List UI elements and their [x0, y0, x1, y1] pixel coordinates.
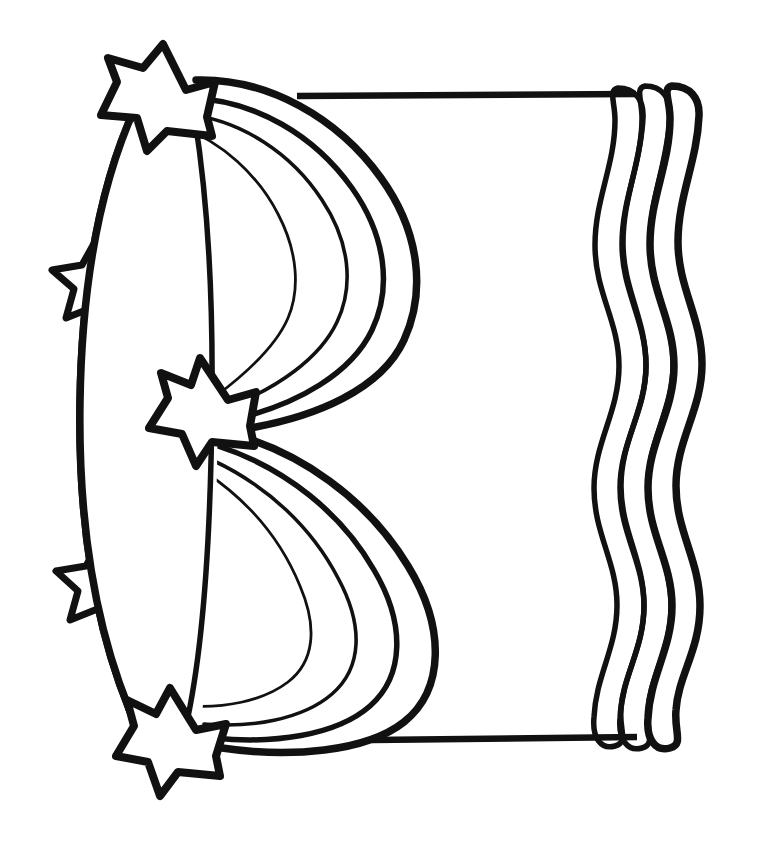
top-horizontal-rule [297, 94, 636, 96]
letter-b-artwork [0, 0, 779, 845]
coloring-page-canvas: Letter B Coloring Page Decorative letter… [0, 0, 779, 845]
